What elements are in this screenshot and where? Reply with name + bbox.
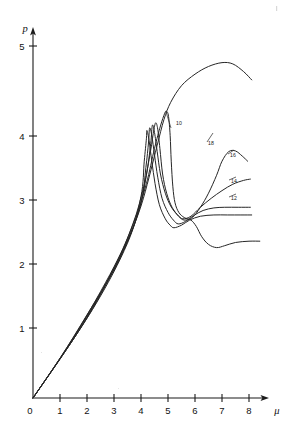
curve-label-10: 10 [176, 120, 182, 126]
curve-layer [33, 62, 260, 398]
curve-top [33, 62, 252, 398]
curve-label-group: 10 18 16 14 12 [176, 120, 237, 201]
y-tick-label-3: 3 [19, 195, 24, 206]
curve-label-12: 12 [231, 195, 237, 201]
y-tick-label-4: 4 [19, 131, 24, 142]
curve-curve-14 [33, 128, 250, 398]
plot-svg: 5 4 3 2 1 0 1 2 3 4 5 6 7 8 p μ 10 18 16… [0, 0, 295, 430]
y-tick-label-5: 5 [19, 41, 24, 52]
x-axis-label: μ [273, 405, 279, 416]
y-tick-label-1: 1 [19, 323, 24, 334]
x-tick-label-3: 3 [111, 405, 116, 416]
x-tick-label-4: 4 [138, 405, 143, 416]
y-tick-label-2: 2 [19, 259, 24, 270]
x-tick-label-7: 7 [219, 405, 224, 416]
x-tick-label-8: 8 [246, 405, 251, 416]
curve-label-18: 18 [208, 140, 214, 146]
x-tick-label-2: 2 [84, 405, 89, 416]
y-axis-label: p [21, 23, 27, 34]
x-tick-label-5: 5 [165, 405, 170, 416]
tick-label-group: 5 4 3 2 1 0 1 2 3 4 5 6 7 8 [19, 41, 251, 416]
curve-label-14: 14 [231, 178, 237, 184]
x-tick-label-1: 1 [57, 405, 62, 416]
x-tick-label-0: 0 [27, 405, 32, 416]
curve-curve-16 [33, 125, 250, 398]
x-tick-label-6: 6 [192, 405, 197, 416]
figure-canvas: 5 4 3 2 1 0 1 2 3 4 5 6 7 8 p μ 10 18 16… [0, 0, 295, 430]
curve-curve-18 [33, 123, 248, 398]
curve-label-16: 16 [230, 152, 236, 158]
